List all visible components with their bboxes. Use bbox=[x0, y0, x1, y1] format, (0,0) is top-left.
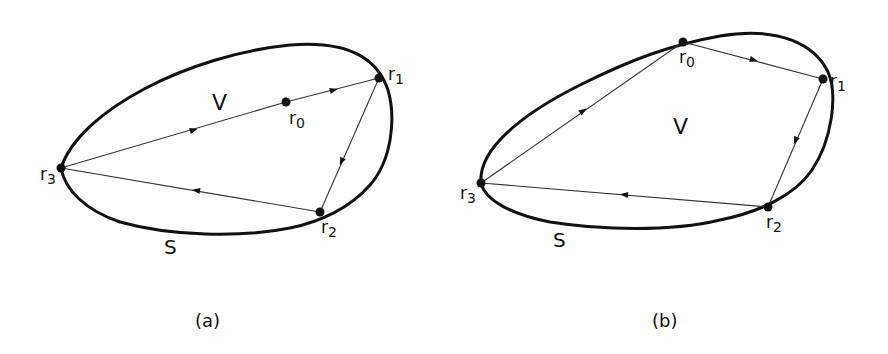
region-label-v-b: V bbox=[673, 114, 688, 139]
label-r1-a: r1 bbox=[388, 64, 404, 87]
arrow-icon bbox=[620, 191, 628, 198]
panel-b: V S r0 r1 r2 r3 (b) bbox=[460, 33, 846, 331]
edge-r3-r0-a bbox=[61, 102, 286, 168]
caption-b: (b) bbox=[652, 310, 677, 331]
label-r0-b: r0 bbox=[679, 47, 695, 70]
label-r1-b: r1 bbox=[830, 71, 846, 94]
point-r3-a bbox=[57, 164, 66, 173]
point-r3-b bbox=[477, 179, 486, 188]
figure-canvas: V S r0 r1 r2 r3 (a) V S r0 r1 r2 r3 (b) bbox=[0, 0, 888, 354]
point-r1-a bbox=[375, 74, 384, 83]
label-r2-a: r2 bbox=[321, 217, 337, 240]
edge-r2-r3-a bbox=[61, 168, 320, 212]
point-r1-b bbox=[819, 75, 828, 84]
surface-boundary-a bbox=[61, 44, 392, 234]
caption-a: (a) bbox=[195, 310, 220, 331]
surface-label-s-a: S bbox=[164, 235, 177, 259]
point-r0-b bbox=[679, 38, 688, 47]
label-r2-b: r2 bbox=[766, 212, 782, 235]
point-r0-a bbox=[282, 98, 291, 107]
surface-boundary-b bbox=[481, 33, 833, 228]
label-r0-a: r0 bbox=[289, 108, 305, 131]
point-r2-b bbox=[764, 203, 773, 212]
region-label-v-a: V bbox=[212, 90, 227, 115]
point-r2-a bbox=[316, 208, 325, 217]
arrow-icon bbox=[337, 157, 346, 167]
label-r3-b: r3 bbox=[460, 183, 476, 206]
label-r3-a: r3 bbox=[40, 164, 56, 187]
panel-a: V S r0 r1 r2 r3 (a) bbox=[40, 44, 404, 331]
surface-label-s-b: S bbox=[553, 228, 566, 252]
arrow-icon bbox=[189, 126, 198, 134]
arrow-icon bbox=[329, 86, 338, 94]
arrow-icon bbox=[749, 56, 758, 64]
edge-r1-r2-a bbox=[320, 78, 379, 212]
